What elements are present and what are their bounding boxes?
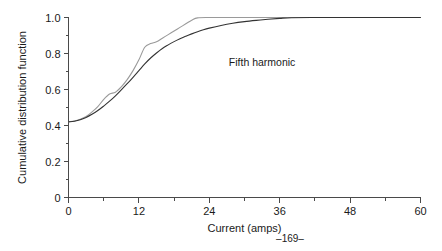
x-tick-label: 48 [344,205,356,217]
series-curve-light-gray-curve [69,17,351,121]
y-tick-label: 0 [54,192,60,204]
x-tick-label: 12 [133,205,145,217]
x-axis-title: Current (amps) [208,222,282,234]
cumulative-distribution-chart: 00.20.40.60.81.001224364860Current (amps… [0,0,442,251]
plot-annotation: Fifth harmonic [229,56,296,68]
x-tick-label: 36 [274,205,286,217]
y-tick-label: 0.6 [45,84,60,96]
figure-container: 00.20.40.60.81.001224364860Current (amps… [0,0,442,251]
axis-lines [69,18,421,198]
y-tick-label: 0.8 [45,48,60,60]
x-tick-label: 0 [65,205,71,217]
page-number-marker: –169– [276,233,304,244]
x-tick-label: 60 [414,205,426,217]
y-tick-label: 0.2 [45,156,60,168]
x-tick-label: 24 [203,205,215,217]
axes [64,18,421,203]
y-axis-title: Cumulative distribution function [16,31,28,184]
y-tick-label: 0.4 [45,120,60,132]
y-tick-label: 1.0 [45,12,60,24]
series-curve-dark-curve [69,17,421,121]
data-series [69,17,421,121]
chart-labels: 00.20.40.60.81.001224364860Current (amps… [16,12,427,245]
